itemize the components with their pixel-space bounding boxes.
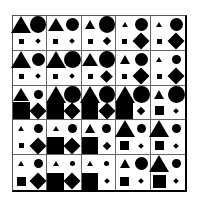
diamond-slot <box>168 33 185 50</box>
square-icon <box>88 74 93 79</box>
diamond-icon <box>64 137 81 154</box>
diamond-slot <box>133 33 150 50</box>
triangle-slot <box>13 120 30 137</box>
triangle-slot <box>116 86 133 103</box>
circle-icon <box>135 53 148 66</box>
grid-cell-r2-c3 <box>82 51 116 86</box>
square-icon <box>53 74 58 79</box>
triangle-icon <box>53 126 59 131</box>
diamond-slot <box>99 173 116 190</box>
square-icon <box>19 74 24 79</box>
diamond-icon <box>35 73 41 79</box>
circle-slot <box>168 120 185 137</box>
triangle-icon <box>80 86 100 103</box>
diamond-icon <box>70 73 76 79</box>
square-slot <box>116 33 133 50</box>
triangle-slot <box>47 51 64 68</box>
triangle-icon <box>115 86 135 103</box>
square-slot <box>47 137 64 154</box>
diamond-icon <box>64 173 81 190</box>
triangle-icon <box>85 20 95 29</box>
grid-cell-r1-c1 <box>13 16 47 51</box>
grid-cell-r4-c1 <box>13 120 47 155</box>
diamond-slot <box>30 173 47 190</box>
square-slot <box>13 33 30 50</box>
triangle-icon <box>46 86 66 103</box>
triangle-icon <box>18 126 24 131</box>
circle-icon <box>172 159 181 168</box>
square-icon <box>122 74 127 79</box>
triangle-icon <box>115 120 135 137</box>
circle-icon <box>32 53 45 66</box>
square-slot <box>151 173 168 190</box>
circle-slot <box>168 155 185 172</box>
square-slot <box>151 137 168 154</box>
diamond-slot <box>168 68 185 85</box>
grid-cell-r4-c5 <box>151 120 185 155</box>
circle-icon <box>137 124 146 133</box>
square-slot <box>116 68 133 85</box>
diamond-icon <box>174 108 180 114</box>
square-icon <box>157 74 162 79</box>
circle-icon <box>133 86 150 103</box>
grid-cell-r2-c5 <box>151 51 185 86</box>
circle-slot <box>64 86 81 103</box>
circle-slot <box>133 86 150 103</box>
circle-icon <box>70 161 75 166</box>
square-icon <box>120 177 129 186</box>
square-icon <box>47 137 64 154</box>
diamond-slot <box>99 68 116 85</box>
diamond-slot <box>133 103 150 120</box>
square-slot <box>47 33 64 50</box>
grid-cell-r3-c5 <box>151 86 185 121</box>
circle-slot <box>99 16 116 33</box>
diamond-slot <box>30 68 47 85</box>
triangle-icon <box>13 88 29 101</box>
diamond-icon <box>168 68 185 85</box>
square-slot <box>13 103 30 120</box>
square-slot <box>82 137 99 154</box>
grid-cell-r3-c1 <box>13 86 47 121</box>
grid-cell-r1-c4 <box>116 16 150 51</box>
diamond-slot <box>168 137 185 154</box>
square-icon <box>116 102 133 119</box>
grid-cell-r1-c3 <box>82 16 116 51</box>
diamond-slot <box>30 33 47 50</box>
triangle-slot <box>151 120 168 137</box>
square-slot <box>47 103 64 120</box>
circle-slot <box>64 155 81 172</box>
triangle-slot <box>116 120 133 137</box>
triangle-slot <box>151 16 168 33</box>
triangle-icon <box>82 53 98 66</box>
square-icon <box>82 102 99 119</box>
diamond-slot <box>133 173 150 190</box>
triangle-icon <box>120 55 130 64</box>
triangle-icon <box>18 161 24 166</box>
triangle-slot <box>151 86 168 103</box>
circle-slot <box>99 51 116 68</box>
diamond-slot <box>168 173 185 190</box>
square-icon <box>120 141 129 150</box>
diamond-icon <box>104 178 110 184</box>
diamond-slot <box>133 68 150 85</box>
grid-cell-r2-c2 <box>47 51 81 86</box>
square-slot <box>151 33 168 50</box>
square-icon <box>155 106 164 115</box>
triangle-icon <box>154 90 164 99</box>
square-slot <box>151 103 168 120</box>
grid-cell-r3-c4 <box>116 86 150 121</box>
grid-cell-r1-c2 <box>47 16 81 51</box>
diamond-slot <box>133 137 150 154</box>
triangle-slot <box>151 155 168 172</box>
grid-cell-r4-c2 <box>47 120 81 155</box>
diamond-slot <box>64 68 81 85</box>
circle-icon <box>170 18 183 31</box>
diamond-icon <box>100 70 113 83</box>
diamond-icon <box>137 107 145 115</box>
circle-slot <box>168 51 185 68</box>
square-icon <box>82 137 99 154</box>
triangle-slot <box>82 51 99 68</box>
circle-slot <box>30 120 47 137</box>
diamond-slot <box>30 103 47 120</box>
square-slot <box>13 173 30 190</box>
